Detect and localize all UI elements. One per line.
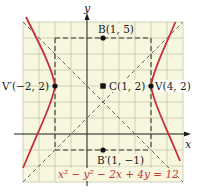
label-b-prime: B′(1, −1): [97, 154, 144, 166]
point-c: [100, 83, 105, 88]
label-v-prime: V′(−2, 2): [1, 80, 49, 92]
point-b: [100, 35, 105, 40]
point-b-prime: [100, 147, 105, 152]
label-v: V(4, 2): [154, 80, 191, 92]
x-axis-label: x: [185, 138, 192, 151]
label-c: C(1, 2): [109, 80, 145, 92]
x-axis-arrow-icon: [184, 132, 191, 137]
equation-label: x² − y² − 2x + 4y = 12: [58, 168, 179, 180]
point-v-prime: [52, 83, 57, 88]
y-axis-label: y: [83, 2, 91, 15]
label-b: B(1, 5): [98, 23, 134, 35]
hyperbola-diagram: x y B(1, 5) C(1, 2) V(4, 2) V′(−2, 2) B′…: [0, 0, 197, 192]
point-v: [148, 83, 153, 88]
